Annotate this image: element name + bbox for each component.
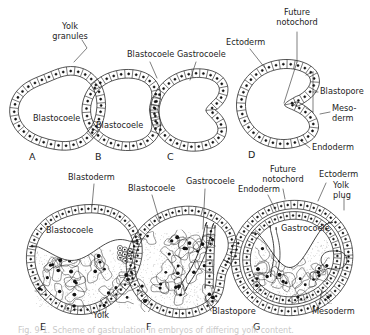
label-line: Blastoderm <box>68 172 115 182</box>
figure-caption: Fig. 9-1. Scheme of gastrulation in embr… <box>18 326 294 335</box>
label-c-blastocoele: Blastocoele <box>127 49 174 59</box>
label-f-blastocoele: Blastocoele <box>128 183 175 193</box>
label-line: Ectoderm <box>226 37 265 47</box>
label-g-ectoderm: Ectoderm <box>319 169 358 179</box>
label-line: Blastocoele <box>127 49 174 59</box>
label-d-mesoderm: Meso-derm <box>332 103 357 123</box>
label-line: Blastocoele <box>128 183 175 193</box>
label-g-gastrocoele: Gastrocoele <box>281 223 330 233</box>
label-line: Blastocoele <box>46 225 93 235</box>
label-g-endoderm: Endoderm <box>238 184 280 194</box>
label-e-blastocoele: Blastocoele <box>46 225 93 235</box>
label-line: Yolk <box>332 180 349 190</box>
label-f-gastrocoele: Gastrocoele <box>186 176 235 186</box>
label-line: Gastrocoele <box>186 176 235 186</box>
label-line: Gastrocoele <box>177 49 226 59</box>
label-c-gastrocoele: Gastrocoele <box>177 49 226 59</box>
figure-canvas: YolkgranulesBlastocoeleBlastocoeleBlasto… <box>0 0 370 335</box>
label-line: Mesoderm <box>312 306 355 316</box>
label-line: Future <box>284 7 310 17</box>
label-e-yolk: Yolk <box>92 310 109 320</box>
label-d-endoderm: Endoderm <box>312 142 354 152</box>
label-line: Blastopore <box>212 306 256 316</box>
label-line: Blastocoele <box>33 113 80 123</box>
label-d-ectoderm: Ectoderm <box>226 37 265 47</box>
panel-letter-a: A <box>29 151 36 162</box>
panel-letter-d: D <box>248 149 255 160</box>
label-e-blastoderm: Blastoderm <box>68 172 115 182</box>
label-line: notochord <box>262 174 304 184</box>
panel-letter-b: B <box>95 151 102 162</box>
label-b-blastocoele: Blastocoele <box>96 120 143 130</box>
label-g-mesoderm: Mesoderm <box>312 306 355 316</box>
label-line: Future <box>270 164 296 174</box>
gastrulation-figure: YolkgranulesBlastocoeleBlastocoeleBlasto… <box>0 0 370 335</box>
label-f-blastopore: Blastopore <box>212 306 256 316</box>
panel-letter-c: C <box>167 151 174 162</box>
label-line: Yolk <box>92 310 109 320</box>
label-g-yolk-plug: Yolkplug <box>332 180 351 200</box>
label-d-blastopore: Blastopore <box>320 86 364 96</box>
label-line: granules <box>52 31 88 41</box>
label-line: Endoderm <box>312 142 354 152</box>
label-line: derm <box>332 113 353 123</box>
label-line: Endoderm <box>238 184 280 194</box>
label-a-blastocoele: Blastocoele <box>33 113 80 123</box>
label-line: notochord <box>276 17 318 27</box>
label-line: Blastopore <box>320 86 364 96</box>
label-line: Blastocoele <box>96 120 143 130</box>
label-line: plug <box>333 190 351 200</box>
label-line: Yolk <box>61 21 78 31</box>
label-line: Gastrocoele <box>281 223 330 233</box>
label-line: Meso- <box>332 103 357 113</box>
label-line: Ectoderm <box>319 169 358 179</box>
